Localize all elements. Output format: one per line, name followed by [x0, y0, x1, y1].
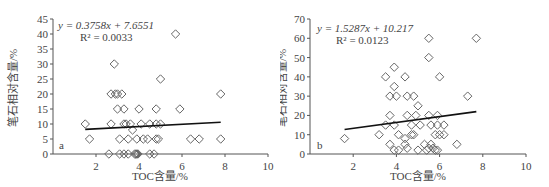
scatter-chart-a: 笔石相对含量/% 051015202530354045246810 y = 0.…: [0, 0, 280, 187]
data-point-marker: [381, 73, 389, 81]
data-point-marker: [110, 60, 118, 68]
data-point-marker: [412, 111, 420, 119]
data-point-marker: [414, 146, 422, 154]
data-point-marker: [217, 90, 225, 98]
panel-label: a: [59, 139, 64, 151]
data-point-marker: [81, 120, 89, 128]
data-point-marker: [186, 135, 194, 143]
data-point-marker: [107, 120, 115, 128]
data-point-marker: [390, 63, 398, 71]
x-tick-label: 2: [350, 160, 356, 172]
y-tick-label: 40: [294, 71, 306, 83]
x-tick-label: 10: [521, 160, 533, 172]
data-point-marker: [340, 134, 348, 142]
y-tick-label: 20: [294, 109, 306, 121]
y-tick-label: 10: [294, 129, 306, 141]
equation-label: y = 1.5287x + 10.217: [316, 22, 414, 34]
scatter-chart-b: 笔石相对含量/% 010203040506070246810 y = 1.528…: [280, 0, 549, 187]
y-tick-label: 0: [43, 148, 49, 160]
y-tick-label: 35: [37, 43, 49, 55]
data-point-marker: [390, 82, 398, 90]
data-point-marker: [425, 34, 433, 42]
panel-label: b: [317, 139, 323, 151]
y-tick-label: 40: [37, 28, 49, 40]
y-tick-label: 60: [294, 32, 306, 44]
x-axis-title: TOC含量/%: [390, 169, 446, 182]
data-point-marker: [85, 135, 93, 143]
y-axis-title: 笔石相对含量/%: [280, 49, 288, 127]
y-tick-label: 0: [300, 148, 306, 160]
x-axis-title: TOC含量/%: [132, 169, 188, 182]
y-tick-label: 10: [37, 118, 49, 130]
data-point-marker: [156, 75, 164, 83]
data-point-marker: [433, 111, 441, 119]
data-point-marker: [386, 111, 394, 119]
y-axis-label: 笔石相对含量/%: [6, 49, 19, 127]
y-tick-label: 25: [37, 73, 49, 85]
data-point-marker: [152, 105, 160, 113]
data-point-marker: [124, 135, 132, 143]
data-point-marker: [176, 105, 184, 113]
y-tick-label: 20: [37, 88, 49, 100]
x-tick-label: 2: [93, 160, 99, 172]
x-tick-label: 10: [263, 160, 275, 172]
r-squared-label: R² = 0.0123: [336, 34, 389, 46]
y-tick-label: 70: [294, 13, 306, 25]
chart-a-svg: 笔石相对含量/% 051015202530354045246810 y = 0.…: [0, 0, 280, 187]
data-point-marker: [195, 135, 203, 143]
data-point-marker: [463, 92, 471, 100]
data-point-marker: [403, 111, 411, 119]
plot-area: 051015202530354045246810: [37, 13, 274, 172]
data-point-marker: [115, 135, 123, 143]
data-point-marker: [217, 135, 225, 143]
data-point-marker: [416, 121, 424, 129]
x-tick-label: 8: [480, 160, 486, 172]
data-point-marker: [375, 131, 383, 139]
data-point-marker: [453, 140, 461, 148]
plot-area: 010203040506070246810: [294, 13, 532, 172]
data-point-marker: [171, 30, 179, 38]
data-point-marker: [407, 121, 415, 129]
y-tick-label: 30: [294, 90, 306, 102]
data-point-marker: [425, 53, 433, 61]
y-tick-label: 45: [37, 13, 49, 25]
y-tick-label: 30: [37, 58, 49, 70]
equation-label: y = 0.3758x + 7.6551: [57, 19, 154, 31]
y-axis-label: 笔石相对含量/%: [280, 49, 288, 127]
y-tick-label: 50: [294, 52, 306, 64]
y-tick-label: 5: [43, 133, 49, 145]
data-point-marker: [472, 34, 480, 42]
x-tick-label: 8: [222, 160, 228, 172]
data-point-marker: [401, 73, 409, 81]
data-point-marker: [435, 73, 443, 81]
data-point-marker: [414, 102, 422, 110]
y-tick-label: 15: [37, 103, 49, 115]
y-axis-title: 笔石相对含量/%: [6, 49, 19, 127]
chart-b-svg: 笔石相对含量/% 010203040506070246810 y = 1.528…: [280, 0, 549, 187]
r-squared-label: R² = 0.0033: [80, 31, 133, 43]
data-point-marker: [135, 105, 143, 113]
